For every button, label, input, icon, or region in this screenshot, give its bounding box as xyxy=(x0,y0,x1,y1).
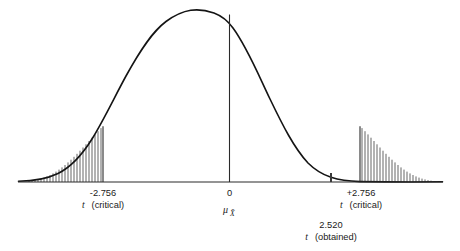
center-tick-label: 0 xyxy=(227,188,232,198)
left-critical-paren-text: (critical) xyxy=(92,200,125,210)
obtained-value-label: 2.520 xyxy=(319,220,342,230)
right-critical-value-label: +2.756 xyxy=(347,188,376,198)
left-critical-t-symbol: t xyxy=(82,199,85,210)
mean-symbol-group: μ X̄ xyxy=(222,204,235,218)
mu-subscript-xbar: X̄ xyxy=(229,209,235,218)
left-region-hatching xyxy=(29,128,101,182)
left-critical-value-label: -2.756 xyxy=(90,188,116,198)
distribution-curve xyxy=(19,10,443,182)
obtained-t-symbol: t xyxy=(305,231,308,242)
right-rejection-region xyxy=(360,126,434,182)
right-critical-paren-text: (critical) xyxy=(350,200,383,210)
obtained-paren-text: (obtained) xyxy=(315,232,357,242)
t-distribution-figure: 0 μ X̄ -2.756 t (critical) +2.756 t (cri… xyxy=(0,0,460,251)
right-region-hatching xyxy=(362,128,434,182)
right-critical-t-symbol: t xyxy=(340,199,343,210)
obtained-label-group: 2.520 t (obtained) xyxy=(305,220,357,243)
mu-symbol: μ xyxy=(222,204,228,215)
left-critical-label-group: -2.756 t (critical) xyxy=(82,188,124,211)
distribution-chart-svg: 0 μ X̄ -2.756 t (critical) +2.756 t (cri… xyxy=(0,0,460,251)
left-rejection-region xyxy=(29,126,103,182)
right-critical-label-group: +2.756 t (critical) xyxy=(340,188,382,211)
